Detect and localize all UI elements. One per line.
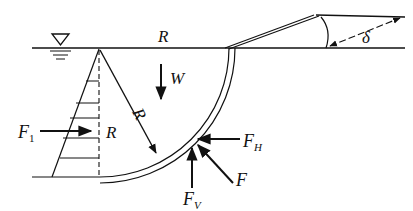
label-r-top: R	[157, 27, 169, 46]
label-delta: δ	[362, 28, 371, 47]
label-f1: F1	[17, 122, 35, 144]
diagram-canvas: R W R R F1 FH F FV δ	[0, 0, 413, 211]
label-r-side: R	[105, 123, 117, 142]
label-fh: FH	[242, 131, 263, 153]
f-resultant-arrow	[198, 145, 233, 183]
label-w: W	[170, 69, 186, 88]
label-fv: FV	[182, 189, 202, 211]
free-surface-icon	[50, 34, 71, 59]
pressure-distribution	[52, 49, 99, 177]
gate-diagram: R W R R F1 FH F FV δ	[0, 0, 413, 211]
label-f: F	[235, 170, 248, 190]
opened-gate	[225, 15, 405, 49]
angle-arc	[321, 17, 328, 48]
